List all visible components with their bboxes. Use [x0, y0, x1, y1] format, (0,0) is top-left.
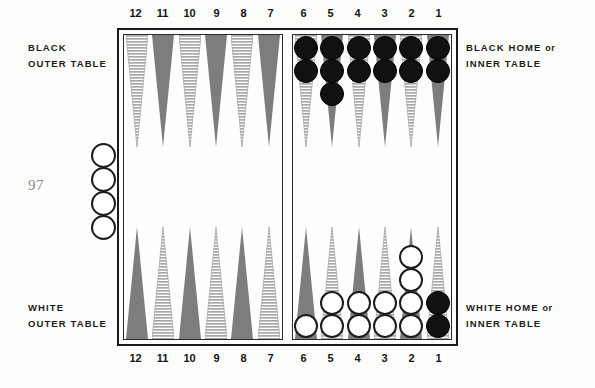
label-black-home-line1: BLACK HOME: [466, 42, 541, 53]
point-triangle-dark: [258, 35, 280, 147]
point-number-top-5: 5: [317, 7, 344, 23]
board-half-right: [292, 34, 452, 340]
checker-black[interactable]: [426, 59, 450, 83]
point-number-bottom-9: 9: [203, 352, 230, 368]
point-7-top[interactable]: [256, 35, 282, 187]
quadrant-white-home: [293, 187, 451, 339]
checker-white[interactable]: [320, 291, 344, 315]
label-white-home-or: or: [543, 303, 553, 313]
checker-black[interactable]: [347, 36, 371, 60]
point-triangle-dark: [231, 227, 253, 339]
point-numbers-bottom-outer: 12 11 10 9 8 7: [122, 352, 284, 368]
point-triangle: [231, 35, 253, 147]
checker-black[interactable]: [426, 314, 450, 338]
point-triangle: [126, 227, 148, 339]
point-3-bottom[interactable]: [372, 187, 398, 339]
checker-white[interactable]: [373, 291, 397, 315]
point-triangle: [126, 35, 148, 147]
point-triangle-hatch: [152, 227, 174, 339]
point-12-bottom[interactable]: [124, 187, 150, 339]
point-triangle-dark: [152, 35, 174, 147]
point-1-top[interactable]: [425, 35, 451, 187]
point-10-bottom[interactable]: [177, 187, 203, 339]
borne-off-checker-white[interactable]: [91, 191, 116, 216]
checker-black[interactable]: [426, 291, 450, 315]
point-number-top-11: 11: [149, 7, 176, 23]
checker-white[interactable]: [320, 314, 344, 338]
point-8-bottom[interactable]: [229, 187, 255, 339]
checker-white[interactable]: [347, 291, 371, 315]
point-numbers-top-outer: 12 11 10 9 8 7: [122, 7, 284, 23]
point-9-bottom[interactable]: [203, 187, 229, 339]
label-white-home-line1: WHITE HOME: [466, 302, 539, 313]
point-triangle: [258, 227, 280, 339]
point-triangle-hatch: [231, 35, 253, 147]
point-triangle-hatch: [179, 35, 201, 147]
point-1-bottom[interactable]: [425, 187, 451, 339]
point-triangle-dark: [179, 227, 201, 339]
label-black-outer-line2: OUTER TABLE: [28, 56, 107, 72]
point-11-bottom[interactable]: [150, 187, 176, 339]
borne-off-checker-white[interactable]: [91, 215, 116, 240]
point-number-top-10: 10: [176, 7, 203, 23]
point-triangle-hatch: [126, 35, 148, 147]
checker-black[interactable]: [320, 59, 344, 83]
point-2-bottom[interactable]: [398, 187, 424, 339]
point-triangle-hatch: [258, 227, 280, 339]
point-numbers-bottom-inner: 6 5 4 3 2 1: [290, 352, 452, 368]
point-12-top[interactable]: [124, 35, 150, 187]
checker-black[interactable]: [294, 36, 318, 60]
checker-white[interactable]: [399, 291, 423, 315]
checker-white[interactable]: [294, 314, 318, 338]
point-7-bottom[interactable]: [256, 187, 282, 339]
diagram-page: 97 12 11 10 9 8 7 6 5 4 3 2 1 12 11 10 9…: [0, 0, 595, 388]
checker-black[interactable]: [373, 59, 397, 83]
checker-white[interactable]: [399, 245, 423, 269]
point-triangle: [205, 227, 227, 339]
point-triangle-hatch: [205, 227, 227, 339]
point-6-top[interactable]: [293, 35, 319, 187]
checker-black[interactable]: [399, 36, 423, 60]
checker-black[interactable]: [320, 36, 344, 60]
checker-black[interactable]: [426, 36, 450, 60]
label-black-home-table: BLACK HOME or INNER TABLE: [466, 40, 555, 72]
borne-off-checker-white[interactable]: [91, 167, 116, 192]
point-number-bottom-8: 8: [230, 352, 257, 368]
checker-black[interactable]: [399, 59, 423, 83]
page-number: 97: [28, 177, 44, 194]
borne-off-checker-white[interactable]: [91, 143, 116, 168]
point-4-top[interactable]: [346, 35, 372, 187]
quadrant-white-outer: [124, 187, 282, 339]
point-2-top[interactable]: [398, 35, 424, 187]
point-5-bottom[interactable]: [319, 187, 345, 339]
point-3-top[interactable]: [372, 35, 398, 187]
point-number-bottom-7: 7: [257, 352, 284, 368]
point-10-top[interactable]: [177, 35, 203, 187]
point-triangle: [258, 35, 280, 147]
point-numbers-top-inner: 6 5 4 3 2 1: [290, 7, 452, 23]
checker-black[interactable]: [294, 59, 318, 83]
checker-black[interactable]: [347, 59, 371, 83]
label-white-home-table: WHITE HOME or INNER TABLE: [466, 300, 553, 332]
point-number-bottom-10: 10: [176, 352, 203, 368]
checker-black[interactable]: [320, 82, 344, 106]
checker-white[interactable]: [399, 268, 423, 292]
checker-white[interactable]: [399, 314, 423, 338]
checker-white[interactable]: [347, 314, 371, 338]
point-number-top-8: 8: [230, 7, 257, 23]
quadrant-black-outer: [124, 35, 282, 187]
checker-white[interactable]: [373, 314, 397, 338]
point-4-bottom[interactable]: [346, 187, 372, 339]
point-number-bottom-4: 4: [344, 352, 371, 368]
point-8-top[interactable]: [229, 35, 255, 187]
point-5-top[interactable]: [319, 35, 345, 187]
point-triangle: [205, 35, 227, 147]
point-number-bottom-1: 1: [425, 352, 452, 368]
checker-black[interactable]: [373, 36, 397, 60]
label-black-home-line2: INNER TABLE: [466, 56, 555, 72]
point-number-bottom-11: 11: [149, 352, 176, 368]
point-9-top[interactable]: [203, 35, 229, 187]
point-11-top[interactable]: [150, 35, 176, 187]
point-6-bottom[interactable]: [293, 187, 319, 339]
point-number-top-6: 6: [290, 7, 317, 23]
